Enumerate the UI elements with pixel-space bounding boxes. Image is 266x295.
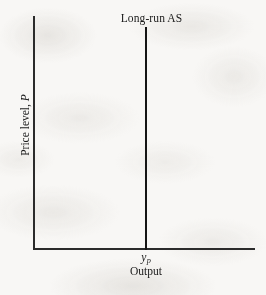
x-axis-line bbox=[33, 248, 255, 250]
y-axis-title-prefix: Price level, bbox=[19, 101, 31, 156]
long-run-as-curve-label: Long-run AS bbox=[0, 12, 266, 25]
y-axis-line bbox=[33, 16, 35, 250]
paper-texture-overlay bbox=[0, 0, 266, 295]
potential-output-tick-label: yp bbox=[141, 251, 150, 265]
y-axis-title-variable: P bbox=[19, 94, 31, 101]
x-axis-title: Output bbox=[130, 265, 162, 278]
long-run-as-curve bbox=[145, 27, 147, 250]
lras-figure: Long-run AS yp Output Price level, P bbox=[0, 0, 266, 295]
y-axis-title: Price level, P bbox=[19, 94, 32, 156]
